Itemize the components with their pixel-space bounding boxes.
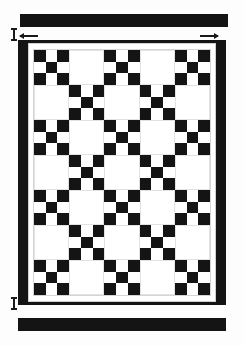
patch-light — [116, 50, 128, 62]
left-width-arrow-marker — [20, 35, 38, 37]
patch-dark — [93, 155, 105, 167]
right-width-arrow-marker — [200, 35, 218, 37]
patch-light — [57, 62, 69, 74]
patch-light — [187, 50, 199, 62]
patch-dark — [34, 283, 46, 295]
patch-dark — [34, 73, 46, 85]
patch-light — [93, 167, 105, 179]
patch-dark — [128, 190, 140, 202]
patch-light — [116, 120, 128, 132]
patch-dark — [187, 272, 199, 284]
patch-light — [140, 237, 152, 249]
patch-light — [116, 283, 128, 295]
patch-light — [46, 73, 58, 85]
patch-light — [187, 190, 199, 202]
patch-dark — [34, 190, 46, 202]
plain-block — [104, 85, 139, 120]
patch-dark — [198, 73, 210, 85]
plain-block — [175, 85, 210, 120]
patch-light — [46, 213, 58, 225]
patch-dark — [104, 190, 116, 202]
patch-dark — [116, 132, 128, 144]
quilt-diagram — [0, 0, 244, 346]
plain-block — [140, 190, 175, 225]
patch-dark — [104, 260, 116, 272]
patch-dark — [151, 237, 163, 249]
patch-dark — [151, 167, 163, 179]
ninepatch-block — [34, 120, 69, 155]
patch-dark — [104, 73, 116, 85]
patch-dark — [46, 132, 58, 144]
patch-light — [187, 143, 199, 155]
plain-block — [175, 155, 210, 190]
patch-dark — [69, 155, 81, 167]
plain-block — [34, 85, 69, 120]
ninepatch-block — [175, 190, 210, 225]
patch-dark — [104, 120, 116, 132]
patch-dark — [198, 143, 210, 155]
patch-dark — [187, 202, 199, 214]
patch-light — [81, 225, 93, 237]
patch-light — [198, 62, 210, 74]
patch-light — [46, 283, 58, 295]
patch-dark — [57, 143, 69, 155]
patch-light — [93, 237, 105, 249]
patch-light — [116, 260, 128, 272]
patch-dark — [34, 120, 46, 132]
patch-light — [187, 73, 199, 85]
patch-light — [151, 85, 163, 97]
patch-light — [175, 62, 187, 74]
patch-light — [57, 272, 69, 284]
patch-light — [128, 202, 140, 214]
plain-block — [104, 225, 139, 260]
ninepatch-block — [140, 85, 175, 120]
patch-light — [198, 272, 210, 284]
patch-dark — [175, 213, 187, 225]
patch-dark — [140, 248, 152, 260]
patch-dark — [104, 143, 116, 155]
plain-block — [140, 120, 175, 155]
plain-block — [175, 225, 210, 260]
patch-dark — [163, 178, 175, 190]
patch-light — [128, 62, 140, 74]
patch-dark — [104, 213, 116, 225]
patch-dark — [69, 178, 81, 190]
ninepatch-block — [69, 155, 104, 190]
patch-dark — [93, 248, 105, 260]
quilt-body — [18, 40, 226, 305]
ninepatch-block — [34, 190, 69, 225]
ninepatch-block — [140, 225, 175, 260]
bottom-height-tick-marker — [13, 297, 15, 310]
patch-light — [163, 167, 175, 179]
patch-dark — [93, 178, 105, 190]
patch-dark — [187, 62, 199, 74]
patch-dark — [198, 120, 210, 132]
patch-dark — [128, 73, 140, 85]
patch-dark — [69, 225, 81, 237]
patch-dark — [175, 260, 187, 272]
patch-light — [198, 202, 210, 214]
patch-dark — [140, 155, 152, 167]
patch-light — [34, 202, 46, 214]
patch-dark — [163, 85, 175, 97]
patch-dark — [69, 108, 81, 120]
plain-block — [34, 225, 69, 260]
ninepatch-block — [175, 120, 210, 155]
patch-dark — [151, 97, 163, 109]
patch-dark — [57, 190, 69, 202]
plain-block — [69, 120, 104, 155]
patch-dark — [46, 202, 58, 214]
plain-block — [34, 155, 69, 190]
patch-light — [81, 155, 93, 167]
ninepatch-block — [104, 120, 139, 155]
bottom-binding-strip — [18, 318, 226, 331]
ninepatch-block — [34, 260, 69, 295]
patch-dark — [81, 237, 93, 249]
patch-light — [116, 190, 128, 202]
patch-dark — [34, 260, 46, 272]
plain-block — [104, 155, 139, 190]
patch-light — [104, 202, 116, 214]
patch-dark — [175, 283, 187, 295]
ninepatch-block — [140, 155, 175, 190]
patch-dark — [34, 213, 46, 225]
